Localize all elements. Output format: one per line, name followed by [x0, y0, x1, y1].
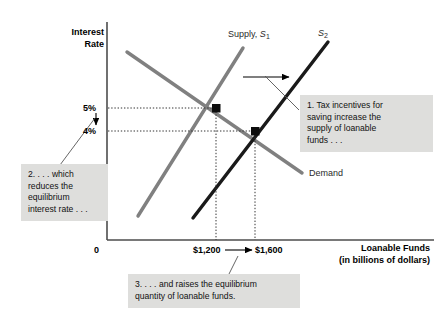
demand-label: Demand [309, 168, 343, 179]
callout-1: 1. Tax incentives for saving increase th… [300, 95, 433, 152]
callout-2-line-4: interest rate . . . [28, 204, 101, 216]
callout-1-line-3: supply of loanable [307, 123, 426, 135]
callout-1-line-1: 1. Tax incentives for [307, 100, 426, 112]
origin-label: 0 [94, 245, 99, 255]
callout-1-line-2: saving increase the [307, 112, 426, 124]
callout-3-line-1: 3. . . . and raises the equilibrium [135, 279, 293, 291]
y-axis-title: Interest Rate [52, 27, 104, 50]
leader-line-callout-1 [265, 76, 299, 110]
y-tick-label-4pct: 4% [83, 126, 96, 136]
x-axis-title: Loanable Funds (in billions of dollars) [300, 243, 430, 266]
y-axis-title-line2: Rate [52, 39, 104, 51]
x-axis-title-line2: (in billions of dollars) [300, 255, 430, 267]
supply-s1-label-symbol: S [260, 29, 266, 39]
supply-curve-s1 [138, 48, 243, 216]
equilibrium-point-new [251, 127, 260, 136]
callout-3-line-2: quantity of loanable funds. [135, 291, 293, 303]
leader-line-callout-3 [228, 256, 238, 276]
supply-s2-label: S2 [318, 28, 328, 39]
loanable-funds-market-diagram: Interest Rate Loanable Funds (in billion… [0, 0, 445, 322]
callout-2-line-1: 2. . . . which [28, 169, 101, 181]
callout-3: 3. . . . and raises the equilibrium quan… [128, 274, 300, 308]
callout-2-line-2: reduces the [28, 181, 101, 193]
x-axis-title-line1: Loanable Funds [300, 243, 430, 255]
x-tick-label-1200: $1,200 [193, 245, 221, 255]
y-axis-title-line1: Interest [52, 27, 104, 39]
supply-s1-label-prefix: Supply, [228, 29, 260, 39]
callout-2-line-3: equilibrium [28, 192, 101, 204]
callout-2: 2. . . . which reduces the equilibrium i… [21, 164, 108, 221]
supply-s2-label-subscript: 2 [324, 32, 328, 39]
y-tick-label-5pct: 5% [83, 103, 96, 113]
callout-1-line-4: funds . . . [307, 135, 426, 147]
supply-s1-label: Supply, S1 [228, 29, 270, 40]
supply-s1-label-subscript: 1 [266, 33, 270, 40]
x-tick-label-1600: $1,600 [255, 245, 283, 255]
equilibrium-point-initial [212, 104, 221, 113]
